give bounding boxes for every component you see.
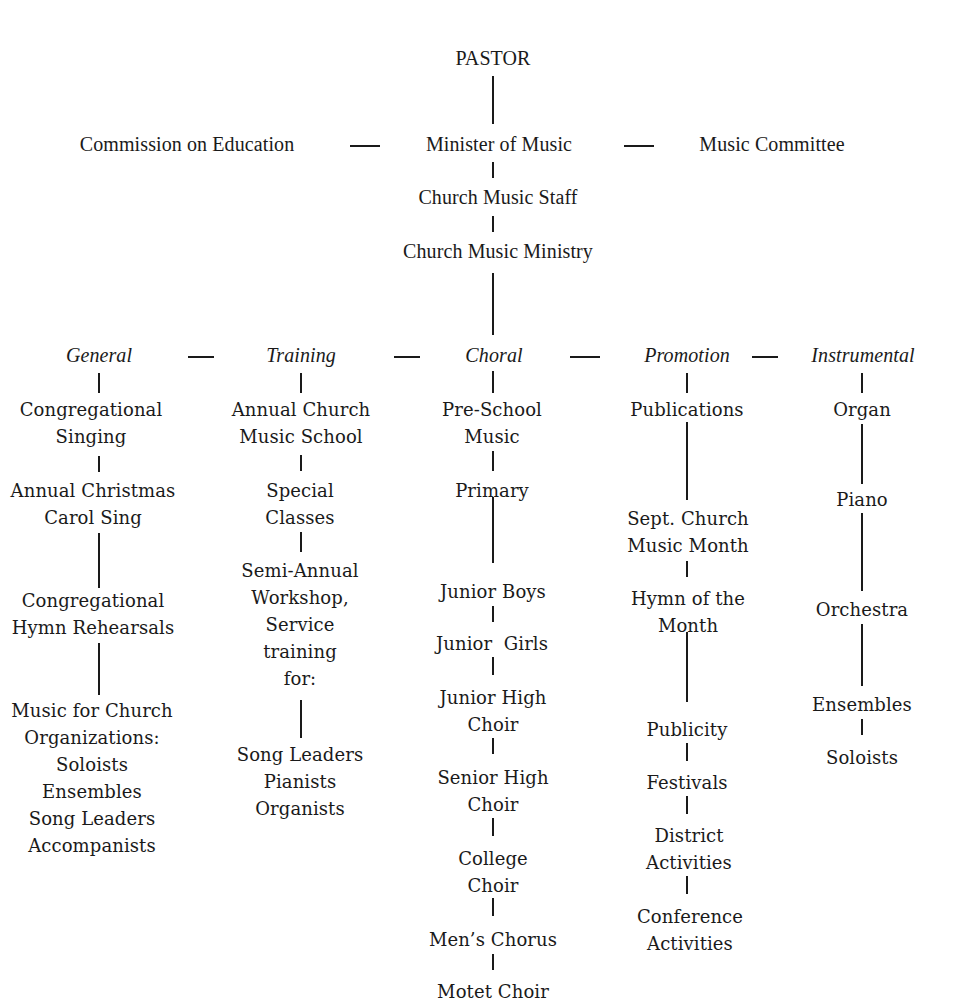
connector (861, 624, 863, 686)
connector (492, 216, 494, 232)
item-congregational-hymn-rehearsals: Congregational Hymn Rehearsals (12, 587, 175, 641)
connector (861, 513, 863, 591)
item-district-activities: District Activities (646, 822, 732, 876)
connector (686, 561, 688, 577)
item-publicity: Publicity (647, 716, 728, 743)
item-congregational-singing: Congregational Singing (20, 396, 163, 450)
item-conference-activities: Conference Activities (637, 903, 743, 957)
item-festivals: Festivals (646, 769, 727, 796)
division-instrumental: Instrumental (811, 342, 914, 369)
item-junior-girls: Junior Girls (436, 630, 548, 657)
connector (300, 532, 302, 552)
connector (394, 356, 420, 358)
connector (492, 954, 494, 970)
connector (492, 818, 494, 836)
item-mens-chorus: Men’s Chorus (429, 926, 557, 953)
item-junior-high-choir: Junior High Choir (440, 684, 547, 738)
node-music-committee: Music Committee (699, 131, 844, 158)
connector (188, 356, 214, 358)
item-song-leaders-pianists-organists: Song Leaders Pianists Organists (237, 741, 364, 822)
connector (861, 373, 863, 393)
connector (350, 145, 380, 147)
node-church-music-ministry: Church Music Ministry (403, 238, 593, 265)
item-annual-church-music-school: Annual Church Music School (232, 396, 371, 450)
item-senior-high-choir: Senior High Choir (437, 764, 548, 818)
connector (686, 743, 688, 761)
connector (98, 533, 100, 588)
connector (861, 719, 863, 735)
item-special-classes: Special Classes (265, 477, 334, 531)
connector (492, 898, 494, 916)
connector (492, 738, 494, 754)
connector (492, 162, 494, 178)
connector (492, 606, 494, 622)
connector (98, 373, 100, 393)
connector (492, 371, 494, 393)
division-choral: Choral (465, 342, 522, 369)
connector (300, 455, 302, 471)
connector (492, 451, 494, 471)
connector (492, 76, 494, 124)
item-piano: Piano (836, 486, 888, 513)
division-general: General (66, 342, 132, 369)
connector (300, 373, 302, 393)
connector (686, 796, 688, 814)
item-orchestra: Orchestra (816, 596, 908, 623)
connector (300, 700, 302, 738)
node-minister-of-music: Minister of Music (426, 131, 572, 158)
connector (98, 643, 100, 695)
connector (686, 876, 688, 894)
node-commission-on-education: Commission on Education (80, 131, 295, 158)
connector (624, 145, 654, 147)
connector (686, 422, 688, 500)
node-pastor: PASTOR (455, 45, 530, 72)
node-church-music-staff: Church Music Staff (418, 184, 577, 211)
item-college-choir: College Choir (458, 845, 528, 899)
item-publications: Publications (630, 396, 743, 423)
division-promotion: Promotion (644, 342, 730, 369)
item-sept-church-music-month: Sept. Church Music Month (627, 505, 749, 559)
connector (861, 424, 863, 484)
item-hymn-of-the-month: Hymn of the Month (631, 585, 745, 639)
item-organ: Organ (833, 396, 891, 423)
item-pre-school-music: Pre-School Music (442, 396, 542, 450)
item-semi-annual-workshop: Semi-Annual Workshop, Service training f… (241, 557, 358, 692)
connector (686, 373, 688, 393)
item-motet-choir: Motet Choir (437, 978, 549, 1005)
connector (492, 273, 494, 335)
connector (686, 632, 688, 702)
item-ensembles: Ensembles (812, 691, 912, 718)
item-junior-boys: Junior Boys (440, 578, 546, 605)
item-soloists: Soloists (826, 744, 898, 771)
connector (492, 657, 494, 675)
connector (492, 497, 494, 563)
connector (98, 456, 100, 472)
connector (752, 356, 778, 358)
item-music-for-church-organizations: Music for Church Organizations: Soloists… (11, 697, 172, 859)
item-annual-christmas-carol-sing: Annual Christmas Carol Sing (11, 477, 176, 531)
division-training: Training (266, 342, 336, 369)
connector (570, 356, 600, 358)
